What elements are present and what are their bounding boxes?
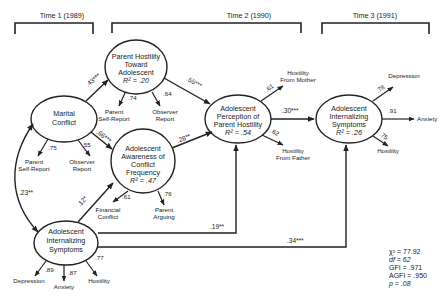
svg-text:Symptoms: Symptoms bbox=[49, 245, 83, 254]
svg-text:.89: .89 bbox=[45, 266, 54, 273]
svg-text:Depression: Depression bbox=[388, 72, 420, 79]
svg-text:.76: .76 bbox=[163, 190, 172, 197]
fit-statistics: χ² = 77.92 df = 62 GFI = .971 AGFI = .95… bbox=[388, 248, 427, 288]
r-squared: R² = .47 bbox=[130, 176, 157, 185]
svg-text:.61: .61 bbox=[264, 82, 276, 93]
svg-text:.74: .74 bbox=[128, 94, 137, 101]
p-value: p = .08 bbox=[388, 280, 411, 288]
indicators-perception: .61 Hostility From Mother .62 Hostility … bbox=[264, 69, 316, 161]
svg-text:Conflict: Conflict bbox=[98, 213, 119, 220]
r-squared: R² = .54 bbox=[225, 128, 251, 137]
svg-text:From Mother: From Mother bbox=[280, 76, 315, 83]
svg-text:.87: .87 bbox=[68, 269, 77, 276]
svg-text:.19**: .19** bbox=[210, 223, 225, 230]
svg-text:Hostility: Hostility bbox=[88, 277, 111, 284]
path-diagram: Time 1 (1989) Time 2 (1990) Time 3 (1991… bbox=[0, 0, 441, 297]
indicators-marital-conflict: .75 Parent Self-Report .55 Observer Repo… bbox=[18, 141, 94, 172]
node-awareness: Adolescent Awareness of Conflict Frequen… bbox=[111, 129, 175, 193]
agfi: AGFI = .950 bbox=[389, 272, 427, 279]
svg-text:Adolescent: Adolescent bbox=[48, 227, 84, 236]
degrees-of-freedom: df = 62 bbox=[389, 256, 411, 263]
svg-text:Parent: Parent bbox=[25, 158, 44, 165]
svg-text:.12*: .12* bbox=[76, 194, 89, 208]
svg-text:.75: .75 bbox=[378, 130, 390, 141]
svg-text:Hostility: Hostility bbox=[287, 69, 310, 76]
svg-text:Report: Report bbox=[73, 165, 92, 172]
svg-text:.43***: .43*** bbox=[84, 71, 102, 87]
indicators-parent-hostility: .74 Parent Self-Report .64 Observer Repo… bbox=[98, 90, 177, 122]
time-2-bracket: Time 2 (1990) bbox=[112, 11, 301, 33]
svg-text:.30***: .30*** bbox=[282, 107, 299, 114]
svg-text:.28**: .28** bbox=[176, 132, 192, 144]
svg-text:From Father: From Father bbox=[276, 154, 310, 161]
svg-text:.55: .55 bbox=[82, 141, 91, 148]
svg-text:Arguing: Arguing bbox=[153, 213, 175, 220]
correlation-mc-it1 bbox=[15, 124, 38, 232]
svg-text:.61: .61 bbox=[122, 193, 131, 200]
svg-text:.62: .62 bbox=[270, 127, 281, 138]
svg-text:.23**: .23** bbox=[19, 189, 34, 196]
svg-text:Conflict: Conflict bbox=[52, 118, 76, 127]
svg-text:Financial: Financial bbox=[96, 206, 121, 213]
chi-square: χ² = 77.92 bbox=[389, 248, 421, 256]
node-internalizing-t1: Adolescent Internalizing Symptoms bbox=[34, 221, 98, 265]
r-squared: R² = .26 bbox=[336, 128, 362, 137]
svg-text:Report: Report bbox=[156, 115, 175, 122]
svg-text:Hostility: Hostility bbox=[377, 147, 400, 154]
gfi: GFI = .971 bbox=[389, 264, 422, 271]
indicators-awareness: .61 Financial Conflict .76 Parent Arguin… bbox=[96, 190, 176, 220]
svg-text:Internalizing: Internalizing bbox=[47, 236, 86, 245]
svg-text:.91: .91 bbox=[388, 107, 397, 114]
svg-text:Depression: Depression bbox=[13, 277, 45, 284]
svg-text:Anxiety: Anxiety bbox=[417, 115, 438, 122]
node-perception: Adolescent Perception of Parent Hostilit… bbox=[205, 95, 271, 143]
svg-text:.77: .77 bbox=[95, 254, 104, 261]
svg-text:Self-Report: Self-Report bbox=[98, 115, 130, 122]
svg-text:Parent: Parent bbox=[105, 108, 124, 115]
svg-text:.75: .75 bbox=[48, 144, 57, 151]
node-marital-conflict: Marital Conflict bbox=[31, 96, 97, 142]
indicators-internalizing-t3: .78 Depression .91 Anxiety .75 Hostility bbox=[375, 72, 439, 154]
time-3-label: Time 3 (1991) bbox=[353, 11, 397, 20]
r-squared: R² = .20 bbox=[123, 76, 149, 85]
svg-text:.55***: .55*** bbox=[186, 75, 204, 90]
svg-text:Parent: Parent bbox=[155, 206, 174, 213]
svg-text:Anxiety: Anxiety bbox=[54, 283, 75, 290]
time-1-bracket: Time 1 (1989) bbox=[15, 11, 93, 34]
svg-text:.64: .64 bbox=[163, 90, 172, 97]
svg-text:Marital: Marital bbox=[53, 109, 75, 118]
time-1-label: Time 1 (1989) bbox=[40, 11, 84, 20]
svg-text:Hostility: Hostility bbox=[282, 147, 305, 154]
time-2-label: Time 2 (1990) bbox=[227, 11, 271, 20]
svg-text:Observer: Observer bbox=[69, 158, 94, 165]
svg-text:Observer: Observer bbox=[152, 108, 177, 115]
node-parent-hostility: Parent Hostility Toward Adolescent R² = … bbox=[105, 40, 167, 94]
svg-text:.78: .78 bbox=[375, 83, 387, 94]
svg-text:.34***: .34*** bbox=[287, 237, 304, 244]
svg-text:Self-Report: Self-Report bbox=[18, 165, 50, 172]
time-3-bracket: Time 3 (1991) bbox=[322, 11, 429, 34]
node-internalizing-t3: Adolescent Internalizing Symptoms R² = .… bbox=[316, 95, 382, 143]
